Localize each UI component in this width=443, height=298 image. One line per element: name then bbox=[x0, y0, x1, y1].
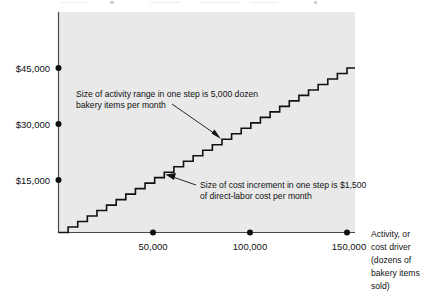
x-tick-label-150000: 150,000 bbox=[332, 241, 366, 252]
x-tick-dot-100000 bbox=[247, 230, 253, 236]
x-tick-dot-150000 bbox=[344, 230, 350, 236]
scan-artifact-row bbox=[60, 1, 317, 4]
x-axis-title-line-3: (dozens of bbox=[371, 255, 412, 265]
y-tick-label-45000: $45,000 bbox=[16, 63, 50, 74]
x-axis-title-line-5: sold) bbox=[371, 281, 390, 291]
x-axis-title: Activity, or cost driver (dozens of bake… bbox=[371, 229, 420, 291]
x-tick-label-50000: 50,000 bbox=[138, 241, 167, 252]
y-tick-label-30000: $30,000 bbox=[16, 119, 50, 130]
x-axis-title-line-4: bakery items bbox=[371, 268, 420, 278]
chart-canvas: $45,000 $30,000 $15,000 50,000 100,000 1… bbox=[0, 0, 443, 298]
cost-increment-annotation-line-1: Size of cost increment in one step is $1… bbox=[200, 180, 366, 190]
x-axis-title-line-1: Activity, or bbox=[371, 229, 410, 239]
x-axis-title-line-2: cost driver bbox=[371, 242, 411, 252]
cost-increment-annotation-line-2: of direct-labor cost per month bbox=[200, 191, 312, 201]
x-tick-label-100000: 100,000 bbox=[233, 241, 267, 252]
y-tick-label-15000: $15,000 bbox=[16, 175, 50, 186]
x-tick-dot-50000 bbox=[150, 230, 156, 236]
activity-range-annotation-line-2: bakery items per month bbox=[76, 100, 166, 110]
y-tick-dot-45000 bbox=[56, 65, 62, 71]
activity-range-annotation-line-1: Size of activity range in one step is 5,… bbox=[76, 89, 258, 99]
step-cost-chart-figure: $45,000 $30,000 $15,000 50,000 100,000 1… bbox=[0, 0, 443, 298]
y-tick-dot-30000 bbox=[56, 121, 62, 127]
y-tick-dot-15000 bbox=[56, 177, 62, 183]
